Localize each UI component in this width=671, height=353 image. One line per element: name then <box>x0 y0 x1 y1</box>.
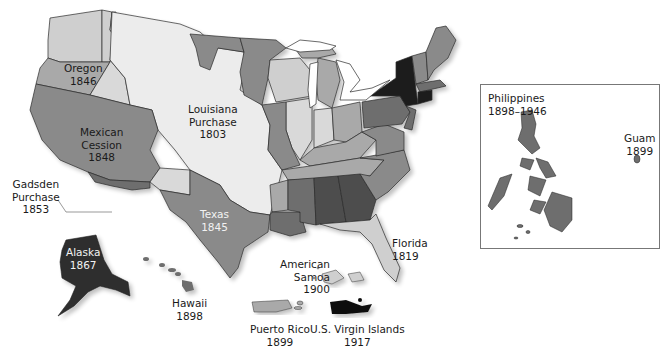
label-oregon-name: Oregon <box>64 62 103 75</box>
region-puerto-rico <box>252 300 303 312</box>
label-guam: Guam 1899 <box>624 132 655 157</box>
lake-michigan <box>308 62 318 108</box>
label-guam-year: 1899 <box>624 145 655 158</box>
label-gadsden-year: 1853 <box>12 203 60 216</box>
label-gadsden-purchase: Gadsden Purchase 1853 <box>12 178 60 216</box>
region-connecticut <box>418 90 432 104</box>
region-indiana <box>314 108 334 148</box>
region-washington <box>48 10 102 62</box>
label-alaska-year: 1867 <box>66 259 100 272</box>
region-arkansas <box>270 180 288 212</box>
label-gadsden-line1: Gadsden <box>12 178 60 191</box>
label-mexican-line1: Mexican <box>80 126 123 139</box>
region-michigan <box>316 58 340 108</box>
label-mexican-line2: Cession <box>80 139 123 152</box>
label-puerto-rico: Puerto Rico 1899 <box>250 323 310 348</box>
label-mexican-cession: Mexican Cession 1848 <box>80 126 123 164</box>
label-louisiana-purchase: Louisiana Purchase 1803 <box>188 103 238 141</box>
label-philippines: Philippines 1898–1946 <box>488 92 547 117</box>
region-us-virgin-islands <box>330 298 372 314</box>
label-guam-name: Guam <box>624 132 655 145</box>
label-louisiana-line2: Purchase <box>188 116 238 129</box>
label-louisiana-line1: Louisiana <box>188 103 238 116</box>
label-samoa-year: 1900 <box>280 283 330 296</box>
label-texas: Texas 1845 <box>200 208 229 233</box>
label-oregon-year: 1846 <box>64 75 103 88</box>
label-gadsden-line2: Purchase <box>12 191 60 204</box>
region-wisconsin <box>268 58 312 102</box>
label-puerto-rico-year: 1899 <box>250 336 310 349</box>
label-us-virgin-islands: U.S. Virgin Islands 1917 <box>310 323 405 348</box>
label-samoa-line2: Samoa <box>280 271 330 284</box>
label-samoa-line1: American <box>280 258 330 271</box>
label-florida-name: Florida <box>392 237 428 250</box>
label-texas-year: 1845 <box>200 221 229 234</box>
label-louisiana-year: 1803 <box>188 128 238 141</box>
lake-superior <box>286 40 336 52</box>
label-virgin-islands-name: U.S. Virgin Islands <box>310 323 405 336</box>
label-alaska-name: Alaska <box>66 246 100 259</box>
label-florida-year: 1819 <box>392 250 428 263</box>
label-hawaii: Hawaii 1898 <box>172 297 207 322</box>
label-puerto-rico-name: Puerto Rico <box>250 323 310 336</box>
label-hawaii-name: Hawaii <box>172 297 207 310</box>
label-alaska: Alaska 1867 <box>66 246 100 271</box>
label-florida: Florida 1819 <box>392 237 428 262</box>
label-hawaii-year: 1898 <box>172 310 207 323</box>
label-oregon: Oregon 1846 <box>64 62 103 87</box>
region-hawaii <box>143 257 194 292</box>
label-virgin-islands-year: 1917 <box>310 336 405 349</box>
label-philippines-name: Philippines <box>488 92 547 105</box>
gadsden-leader-line <box>58 200 112 212</box>
region-maine <box>426 26 456 80</box>
label-mexican-year: 1848 <box>80 151 123 164</box>
label-philippines-years: 1898–1946 <box>488 105 547 118</box>
label-texas-name: Texas <box>200 208 229 221</box>
label-american-samoa: American Samoa 1900 <box>280 258 330 296</box>
